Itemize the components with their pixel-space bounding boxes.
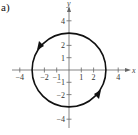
x-tick-label: 4 xyxy=(116,73,120,82)
y-tick-label: −4 xyxy=(56,115,65,124)
direction-arrow-upper-left-icon xyxy=(37,41,44,50)
circle-plot: a) x y −4−2−1124 421−1−2−4 xyxy=(0,0,138,135)
x-tick-label: −2 xyxy=(40,73,49,82)
x-axis-label: x xyxy=(131,66,136,75)
x-tick-label: 1 xyxy=(79,73,83,82)
panel-label: a) xyxy=(1,1,10,14)
x-tick-label: −4 xyxy=(16,73,25,82)
y-tick-label: 2 xyxy=(61,41,65,50)
y-axis: y xyxy=(66,0,71,128)
y-tick-label: −1 xyxy=(56,78,65,87)
x-axis-arrow-icon xyxy=(125,68,131,72)
y-tick-label: 4 xyxy=(61,17,65,26)
x-tick-label: 2 xyxy=(92,73,96,82)
y-tick-label: −2 xyxy=(56,91,65,100)
y-axis-label: y xyxy=(66,0,71,8)
direction-arrow-lower-right-icon xyxy=(94,90,101,99)
y-tick-label: 1 xyxy=(61,54,65,63)
